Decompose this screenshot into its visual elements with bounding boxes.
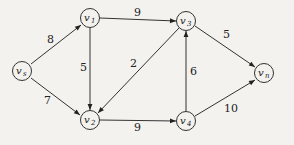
- edge-v1-v2: 5: [80, 28, 90, 110]
- node-label: v: [258, 67, 264, 78]
- node-vn: v n: [255, 64, 274, 83]
- node-label: v: [180, 115, 186, 126]
- edge-weight: 5: [223, 28, 230, 41]
- node-label: v: [84, 12, 90, 23]
- node-v1: v 1: [81, 9, 100, 28]
- node-subscript: n: [265, 72, 270, 80]
- edge-weight: 9: [134, 121, 141, 134]
- edge-vs-v1: 8: [31, 25, 81, 64]
- node-subscript: 4: [186, 120, 191, 128]
- edge-weight: 6: [190, 65, 197, 78]
- edge-weight: 9: [134, 6, 141, 19]
- edge-v2-v4: 9: [100, 120, 176, 134]
- edge-weight: 5: [80, 61, 87, 74]
- node-v3: v 3: [177, 12, 196, 31]
- node-subscript: 2: [90, 119, 96, 127]
- node-label: v: [16, 65, 22, 76]
- node-v2: v 2: [81, 111, 100, 130]
- edge-v3-v2: 2: [98, 28, 179, 113]
- node-subscript: s: [23, 70, 27, 78]
- edge-v4-vn: 10: [195, 80, 255, 116]
- edge-v4-v3: 6: [186, 31, 197, 111]
- node-v4: v 4: [177, 112, 196, 131]
- edge-v3-vn: 5: [195, 26, 255, 67]
- edge-weight: 7: [44, 94, 51, 107]
- edge-weight: 8: [47, 33, 54, 46]
- edge-weight: 10: [224, 102, 238, 115]
- node-label: v: [84, 114, 90, 125]
- node-subscript: 3: [187, 20, 192, 28]
- graph-canvas: 8 7 9 5 2 9 6 5: [0, 0, 294, 145]
- node-label: v: [180, 15, 186, 26]
- node-subscript: 1: [91, 17, 95, 25]
- edge-weight: 2: [130, 57, 137, 70]
- edge-v1-v3: 9: [100, 6, 176, 21]
- edge-vs-v2: 7: [31, 78, 80, 115]
- node-vs: v s: [13, 62, 32, 81]
